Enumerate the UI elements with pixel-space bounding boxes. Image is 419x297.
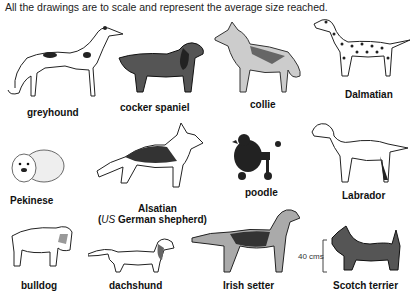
label-scotch-terrier: Scotch terrier	[333, 280, 398, 291]
label-pekinese: Pekinese	[10, 195, 53, 206]
label-irish-setter: Irish setter	[223, 280, 274, 291]
label-bulldog: bulldog	[21, 280, 57, 291]
alsatian-drawing	[95, 121, 205, 191]
scale-label: 40 cms	[298, 252, 324, 261]
label-labrador: Labrador	[342, 190, 385, 201]
scotch-terrier-drawing	[330, 224, 402, 274]
cocker-spaniel-drawing	[117, 40, 207, 95]
label-alsatian: Alsatian	[138, 203, 177, 214]
greyhound-drawing	[5, 18, 125, 103]
label-dachshund: dachshund	[109, 280, 162, 291]
caption: All the drawings are to scale and repres…	[5, 1, 328, 13]
labrador-drawing	[310, 122, 410, 187]
label-collie: collie	[250, 99, 276, 110]
dachshund-drawing	[88, 236, 176, 276]
collie-drawing	[210, 20, 305, 95]
label-cocker-spaniel: cocker spaniel	[120, 102, 189, 113]
us-prefix: US	[101, 214, 115, 225]
label-poodle: poodle	[245, 187, 278, 198]
label-dalmatian: Dalmatian	[345, 89, 393, 100]
dalmatian-drawing	[312, 18, 412, 83]
bulldog-drawing	[8, 222, 73, 270]
poodle-drawing	[232, 132, 282, 182]
label-greyhound: greyhound	[27, 107, 79, 118]
irish-setter-drawing	[190, 206, 300, 276]
pekinese-drawing	[8, 148, 66, 186]
